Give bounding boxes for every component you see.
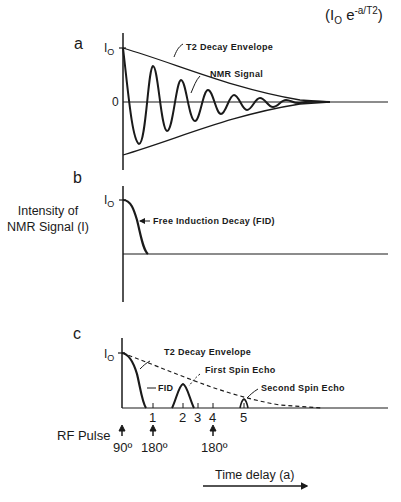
c-envelope-annotation: T2 Decay Envelope: [164, 348, 251, 357]
panel-b-graphics: [119, 186, 388, 302]
first-echo-annotation: First Spin Echo: [205, 366, 276, 375]
panel-a-zero-label: 0: [112, 96, 119, 108]
nmr-signal-wave: [123, 48, 330, 144]
second-echo-annotation: Second Spin Echo: [261, 384, 345, 393]
rf-pulse-arrows: [119, 425, 216, 436]
time-delay-label: Time delay (a): [215, 469, 294, 482]
pulse-180-second: 180º: [201, 441, 227, 454]
panel-c-io-label: IO: [104, 348, 114, 363]
rf-pulse-label: RF Pulse: [57, 429, 110, 442]
c-envelope-dashed: [122, 353, 322, 408]
tick-5: 5: [240, 411, 247, 424]
tick-3: 3: [194, 411, 201, 424]
panel-a-io-label: IO: [104, 42, 114, 57]
pulse-180-first: 180º: [141, 441, 167, 454]
t2-envelope-annotation: T2 Decay Envelope: [186, 43, 273, 52]
tick-1: 1: [149, 411, 156, 424]
fid-curve: [123, 200, 148, 254]
panel-b-io-label: IO: [104, 194, 114, 209]
panel-a-graphics: [119, 33, 388, 170]
pulse-90: 90º: [113, 441, 132, 454]
nmr-signal-annotation: NMR Signal: [210, 70, 263, 79]
decay-formula: (IO e-a/T2): [325, 6, 383, 26]
tick-2: 2: [179, 411, 186, 424]
panel-c-label: c: [73, 326, 81, 342]
c-fid-curve: [122, 353, 146, 408]
envelope-bottom: [123, 102, 330, 155]
fid-annotation: Free Induction Decay (FID): [153, 217, 275, 226]
c-fid-annotation: FID: [158, 384, 173, 393]
panel-b-label: b: [73, 170, 82, 186]
panel-a-label: a: [74, 36, 83, 52]
y-axis-label: Intensity of NMR Signal (I): [6, 203, 90, 236]
nmr-diagram-graphics: [0, 0, 401, 502]
tick-4: 4: [209, 411, 216, 424]
